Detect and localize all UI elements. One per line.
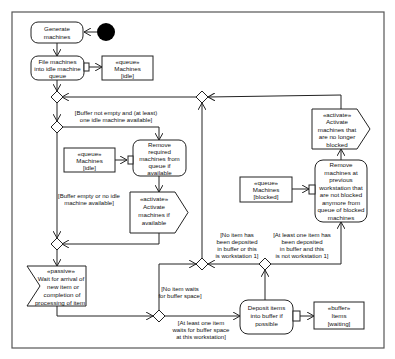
svg-text:one idle machine available]: one idle machine available] — [80, 117, 153, 123]
svg-text:«passive»: «passive» — [47, 267, 75, 274]
object-buffer-items-waiting: «buffer» Items [waiting] — [314, 302, 364, 329]
svg-text:available: available — [142, 219, 167, 226]
object-queue-blocked: «queue» Machines [blocked] — [240, 177, 292, 202]
svg-text:new item or: new item or — [47, 283, 79, 290]
svg-text:[No item waits: [No item waits — [161, 286, 199, 292]
action-file-machines: File machines into idle machine queue — [31, 56, 89, 80]
merge-node-3 — [51, 238, 63, 250]
svg-text:[idle]: [idle] — [121, 72, 134, 79]
guard-at-least-one-waits: [At least one item waits for buffer spac… — [172, 320, 231, 340]
svg-text:Machines: Machines — [253, 186, 279, 193]
svg-text:required: required — [148, 148, 171, 155]
svg-text:File machines: File machines — [38, 58, 76, 65]
svg-text:possible: possible — [255, 320, 278, 327]
decision-node-deposited — [259, 258, 271, 270]
svg-text:in buffer and this: in buffer and this — [280, 246, 324, 252]
svg-text:Remove: Remove — [148, 141, 172, 148]
svg-text:been deposited: been deposited — [216, 239, 257, 245]
svg-text:«queue»: «queue» — [254, 179, 279, 186]
svg-text:queue: queue — [49, 72, 67, 79]
svg-text:machines: machines — [328, 214, 354, 221]
action-remove-required-machines: Remove required machines from queue if a… — [128, 140, 186, 176]
initial-node — [97, 23, 115, 41]
signal-activate-machines-no-longer-blocked: «activate» Activate machines that are no… — [312, 109, 370, 149]
svg-text:Generate: Generate — [44, 25, 70, 32]
svg-text:queue of blocked: queue of blocked — [317, 206, 365, 213]
guard-buffer-empty: [Buffer empty or no idle machine availab… — [58, 193, 121, 206]
guard-no-item-deposited: [No item has been deposited in buffer or… — [215, 232, 258, 259]
svg-text:are not blocked: are not blocked — [320, 191, 363, 198]
svg-text:[No item has: [No item has — [220, 232, 254, 238]
svg-text:machine available]: machine available] — [64, 200, 114, 206]
decision-node-waits — [153, 310, 165, 322]
svg-text:into buffer if: into buffer if — [250, 312, 282, 319]
output-pin — [293, 311, 300, 321]
input-pin — [128, 156, 133, 164]
svg-text:«queue»: «queue» — [115, 58, 140, 65]
svg-text:[waiting]: [waiting] — [328, 320, 351, 327]
svg-text:«queue»: «queue» — [77, 150, 102, 157]
svg-text:is not workstation 1]: is not workstation 1] — [275, 253, 328, 259]
accept-event-passive-wait: «passive» Wait for arrival of new item o… — [27, 266, 86, 306]
svg-text:is workstation 1]: is workstation 1] — [215, 253, 258, 259]
svg-text:«buffer»: «buffer» — [328, 304, 351, 311]
guard-at-least-one-deposited: [At least one item has been deposited in… — [273, 232, 331, 259]
edge-activate-to-merge3 — [62, 233, 159, 244]
decision-node-buffer — [51, 121, 63, 133]
svg-text:for buffer space]: for buffer space] — [158, 293, 202, 299]
svg-text:into idle machine: into idle machine — [34, 65, 81, 72]
guard-no-item-waits: [No item waits for buffer space] — [158, 286, 202, 299]
output-pin — [84, 63, 89, 71]
merge-node-4 — [196, 258, 208, 270]
action-generate-machines: Generate machines — [31, 22, 83, 43]
svg-text:Activate: Activate — [326, 118, 349, 125]
signal-activate-machines-if-available: «activate» Activate machines if availabl… — [130, 192, 188, 233]
svg-text:are no longer: are no longer — [319, 133, 355, 140]
svg-text:Remove: Remove — [329, 161, 353, 168]
svg-text:machines at: machines at — [324, 169, 358, 176]
svg-text:workstation that: workstation that — [318, 184, 363, 191]
merge-node-right — [196, 91, 208, 103]
edge-passive-to-decision — [57, 306, 153, 316]
svg-text:Items: Items — [331, 312, 346, 319]
svg-text:Activate: Activate — [143, 203, 166, 210]
svg-text:[Buffer empty or no idle: [Buffer empty or no idle — [58, 193, 121, 199]
svg-text:waits for buffer space: waits for buffer space — [172, 327, 231, 333]
svg-text:Machines: Machines — [114, 65, 140, 72]
activity-diagram: Generate machines File machines into idl… — [0, 0, 395, 359]
svg-text:in buffer or this: in buffer or this — [217, 246, 257, 252]
action-deposit-items: Deposit items into buffer if possible — [240, 300, 300, 334]
svg-text:«activate»: «activate» — [140, 195, 169, 202]
svg-text:machines from: machines from — [139, 155, 180, 162]
svg-text:blocked: blocked — [326, 141, 348, 148]
svg-text:Machines: Machines — [76, 157, 102, 164]
svg-text:processing of item: processing of item — [35, 299, 85, 306]
svg-text:[blocked]: [blocked] — [254, 193, 279, 200]
input-pin — [309, 185, 315, 194]
svg-text:machines that: machines that — [318, 126, 357, 133]
svg-text:machines: machines — [44, 33, 70, 40]
svg-text:anymore from: anymore from — [322, 199, 360, 206]
svg-text:completion of: completion of — [44, 291, 81, 298]
object-queue-idle-top: «queue» Machines [idle] — [102, 56, 153, 80]
svg-text:available: available — [147, 169, 172, 176]
edge-activate-to-merge-right — [208, 95, 341, 109]
svg-text:«activate»: «activate» — [323, 111, 352, 118]
svg-text:queue if: queue if — [148, 162, 170, 169]
edge-decision-to-remove — [63, 127, 159, 140]
svg-text:Wait for arrival of: Wait for arrival of — [38, 275, 85, 282]
svg-text:previous: previous — [329, 176, 352, 183]
svg-text:[At least one item: [At least one item — [178, 320, 224, 326]
svg-text:at this workstation]: at this workstation] — [176, 334, 226, 340]
object-queue-idle-mid: «queue» Machines [idle] — [64, 148, 115, 172]
guard-buffer-not-empty: [Buffer not empty and (at least) one idl… — [75, 110, 157, 123]
svg-text:[At least one item has: [At least one item has — [273, 232, 331, 238]
svg-text:[Buffer not empty and (at leas: [Buffer not empty and (at least) — [75, 110, 157, 116]
merge-node-1 — [51, 91, 63, 103]
svg-text:[idle]: [idle] — [83, 164, 96, 171]
svg-text:been deposited: been deposited — [281, 239, 322, 245]
svg-text:machines if: machines if — [138, 211, 170, 218]
svg-text:Deposit items: Deposit items — [248, 304, 285, 311]
action-remove-machines-previous-workstation: Remove machines at previous workstation … — [309, 160, 367, 222]
